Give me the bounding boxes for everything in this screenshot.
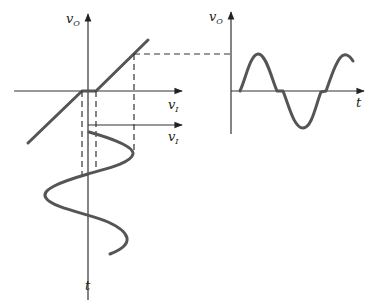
output-time-axis-label: t [356,95,362,110]
output-vo-axis-label: vO [209,9,223,26]
dead-zone-transfer-diagram: vO vI vI t vO t [0,0,376,306]
time-axis-label: t [85,278,91,293]
input-vi-axis-label: vI [168,129,179,146]
vi-axis-label: vI [168,97,179,114]
input-sinusoid [45,132,133,254]
input-waveform-plot: vI t [45,125,182,293]
output-waveform-plot: vO t [209,9,364,134]
projection-lines [82,54,231,178]
vo-axis-label: vO [66,11,80,28]
